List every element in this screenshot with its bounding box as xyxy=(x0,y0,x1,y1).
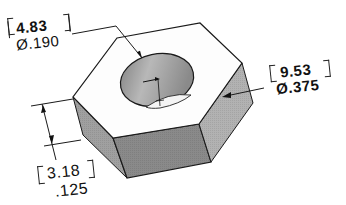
thickness-dimension-line xyxy=(42,104,56,160)
hex-nut-drawing: 4.83 Ø.190 9.53 Ø.375 3.18 .125 xyxy=(0,0,346,205)
hole-diameter-imperial: Ø.190 xyxy=(15,33,60,52)
across-flats-imperial: Ø.375 xyxy=(275,77,320,96)
extension-line-top xyxy=(31,99,73,106)
extension-line-bottom xyxy=(44,140,81,146)
